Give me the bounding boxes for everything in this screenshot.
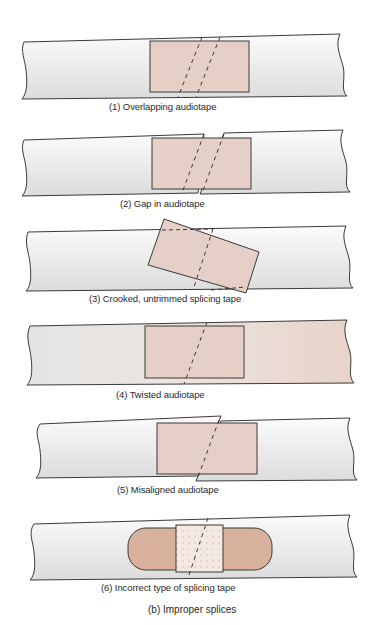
splicing-tape: [150, 41, 249, 92]
caption-panel-2: (2) Gap in audiotape: [120, 198, 205, 209]
splicing-tape: [145, 326, 244, 378]
caption-panel-5: (5) Misaligned audiotape: [117, 484, 219, 495]
caption-panel-1: (1) Overlapping audiotape: [109, 101, 216, 112]
caption-panel-6: (6) Incorrect type of splicing tape: [101, 582, 235, 593]
splicing-tape: [157, 423, 257, 474]
splicing-tape: [152, 138, 251, 189]
panel-1-overlapping-audiotape: [22, 34, 347, 99]
figure-caption: (b) Improper splices: [148, 604, 236, 615]
panel-2-gap-in-audiotape: [22, 130, 350, 196]
improper-splices-diagram: [0, 0, 371, 625]
panel-3-crooked-untrimmed-splicing-tape: [26, 219, 353, 293]
bandage-pad: [176, 525, 223, 572]
panel-4-twisted-audiotape: [27, 320, 354, 385]
caption-panel-4: (4) Twisted audiotape: [116, 389, 205, 400]
caption-panel-3: (3) Crooked, untrimmed splicing tape: [89, 293, 241, 304]
panel-5-misaligned-audiotape: [36, 416, 357, 481]
panel-6-incorrect-splicing-tape: [30, 515, 357, 580]
